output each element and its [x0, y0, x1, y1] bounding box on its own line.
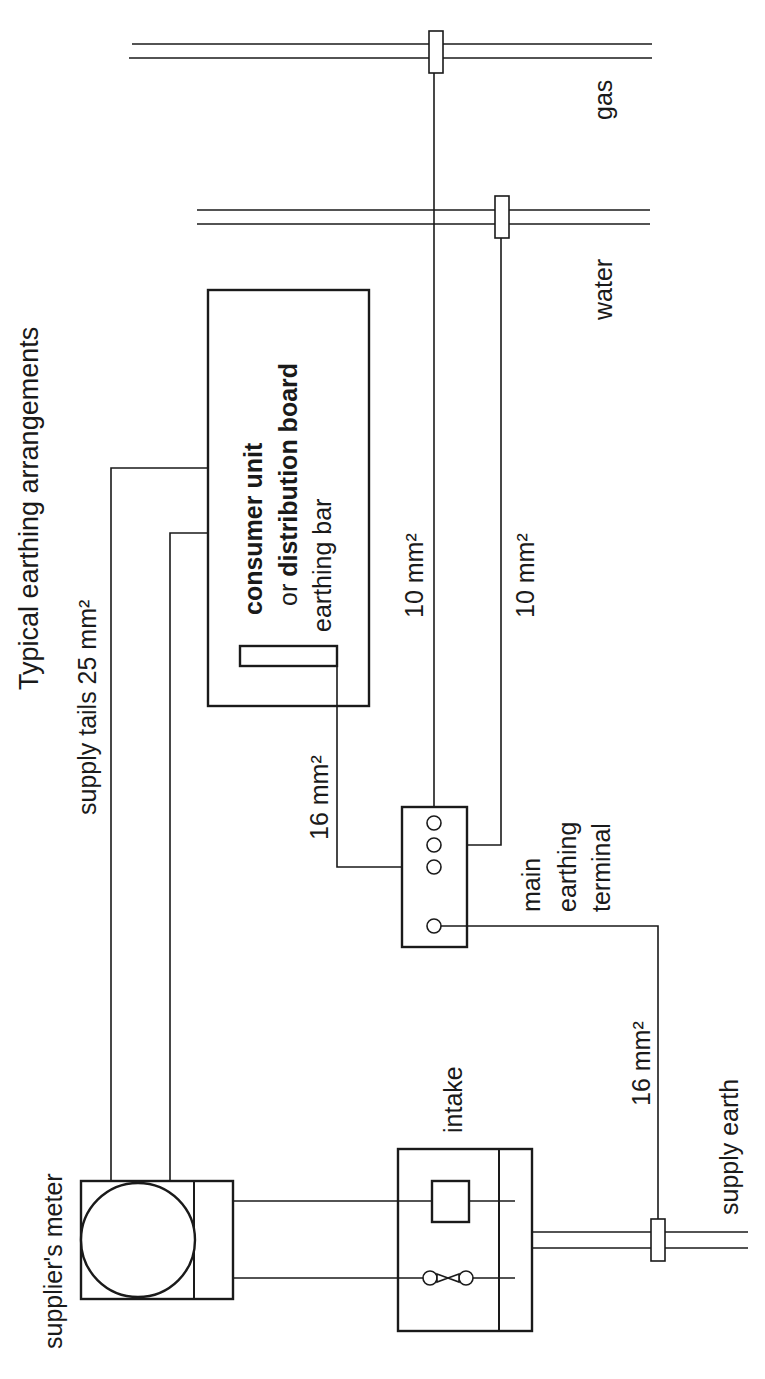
gas-pipe: [129, 31, 652, 73]
water-label: water: [589, 259, 617, 321]
suppliers-meter: [81, 1181, 233, 1299]
suppliers-meter-label: supplier's meter: [39, 1173, 67, 1349]
fuse-icon: [432, 1181, 469, 1222]
water-clamp: [495, 196, 509, 238]
meter-dial-icon: [81, 1183, 195, 1297]
met-label-line1: main: [517, 858, 545, 912]
supply-tail-1: [111, 468, 208, 1180]
supply-tail-2: [170, 533, 208, 1180]
intake: [398, 1149, 532, 1331]
met-label-line2: earthing: [553, 822, 581, 912]
cu-met-cable-size: 16 mm²: [305, 755, 333, 840]
distribution-board-label: or distribution board: [274, 363, 302, 606]
gas-bond-cable-size: 10 mm²: [400, 533, 428, 618]
water-bond-wire: [442, 238, 501, 845]
supply-earth-cable: [532, 1219, 748, 1261]
supply-earth-label: supply earth: [715, 1079, 743, 1215]
supply-tails-label: supply tails 25 mm²: [73, 600, 101, 815]
water-bond-cable-size: 10 mm²: [511, 533, 539, 618]
intake-label: intake: [439, 1066, 467, 1133]
earth-conductor-cable-size: 16 mm²: [627, 1021, 655, 1106]
earthing-bar-label: earthing bar: [308, 499, 336, 632]
earthing-bar: [240, 646, 337, 666]
gas-label: gas: [589, 80, 617, 120]
water-pipe: [197, 196, 650, 238]
diagram-title: Typical earthing arrangements: [14, 327, 44, 690]
supply-earth-clamp: [651, 1219, 665, 1261]
gas-clamp: [429, 31, 443, 73]
earthing-diagram: Typical earthing arrangements supply tai…: [0, 0, 765, 1379]
met-label-line3: terminal: [587, 823, 615, 912]
consumer-unit-label: consumer unit: [239, 442, 267, 615]
